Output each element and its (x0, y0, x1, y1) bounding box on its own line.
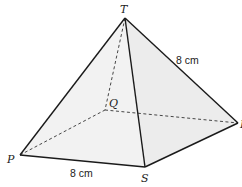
vertex-label-s: S (141, 172, 149, 185)
face-tps (20, 18, 145, 167)
vertex-label-r: R (239, 118, 242, 131)
pyramid-diagram: T Q R P S 8 cm 8 cm (0, 0, 242, 187)
measurement-tr: 8 cm (176, 54, 199, 66)
vertex-label-q: Q (109, 97, 118, 110)
vertex-label-p: P (6, 153, 15, 166)
vertex-label-t: T (120, 3, 129, 16)
measurement-ps: 8 cm (70, 167, 93, 179)
